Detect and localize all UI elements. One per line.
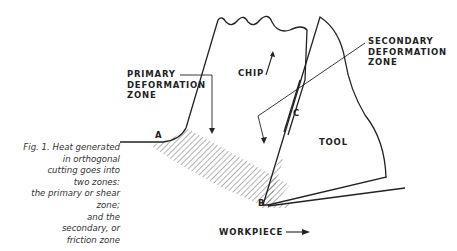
caption-line: the primary or shear (4, 188, 120, 200)
secondary-zone-line-2: DEFORMATION (368, 47, 447, 58)
workpiece-arrowhead (302, 229, 310, 235)
chip-arrowhead (270, 51, 275, 57)
chip-direction-arrow (266, 56, 272, 75)
secondary-zone-label: SECONDARY DEFORMATION ZONE (368, 36, 447, 68)
secondary-zone-line-1: SECONDARY (368, 36, 447, 47)
tool-label: TOOL (319, 137, 348, 148)
secondary-zone-arrowhead (261, 137, 267, 144)
point-a-label: A (155, 130, 162, 141)
caption-line: in orthogonal (4, 154, 120, 166)
caption-line: Fig. 1. Heat generated (4, 142, 120, 154)
caption-line: zone; (4, 200, 120, 212)
caption-line: cutting goes into (4, 165, 120, 177)
workpiece-label: WORKPIECE (219, 227, 283, 238)
primary-zone-line-2: DEFORMATION (127, 80, 206, 91)
point-b-label: B (258, 198, 265, 209)
caption-line: friction zone (4, 235, 120, 247)
caption-line: and the (4, 212, 120, 224)
primary-zone-label: PRIMARY DEFORMATION ZONE (127, 69, 206, 101)
primary-zone-line-3: ZONE (127, 90, 206, 101)
caption-line: two zones: (4, 177, 120, 189)
chip-label: CHIP (238, 68, 264, 79)
machined-surface (268, 188, 405, 206)
point-c-label: C (293, 108, 300, 119)
secondary-zone-leader (258, 43, 365, 140)
caption-line: secondary, or (4, 223, 120, 235)
primary-zone-line-1: PRIMARY (127, 69, 206, 80)
figure-caption: Fig. 1. Heat generated in orthogonal cut… (4, 142, 120, 246)
secondary-zone-line-3: ZONE (368, 57, 447, 68)
primary-zone-arrowhead (209, 128, 215, 134)
